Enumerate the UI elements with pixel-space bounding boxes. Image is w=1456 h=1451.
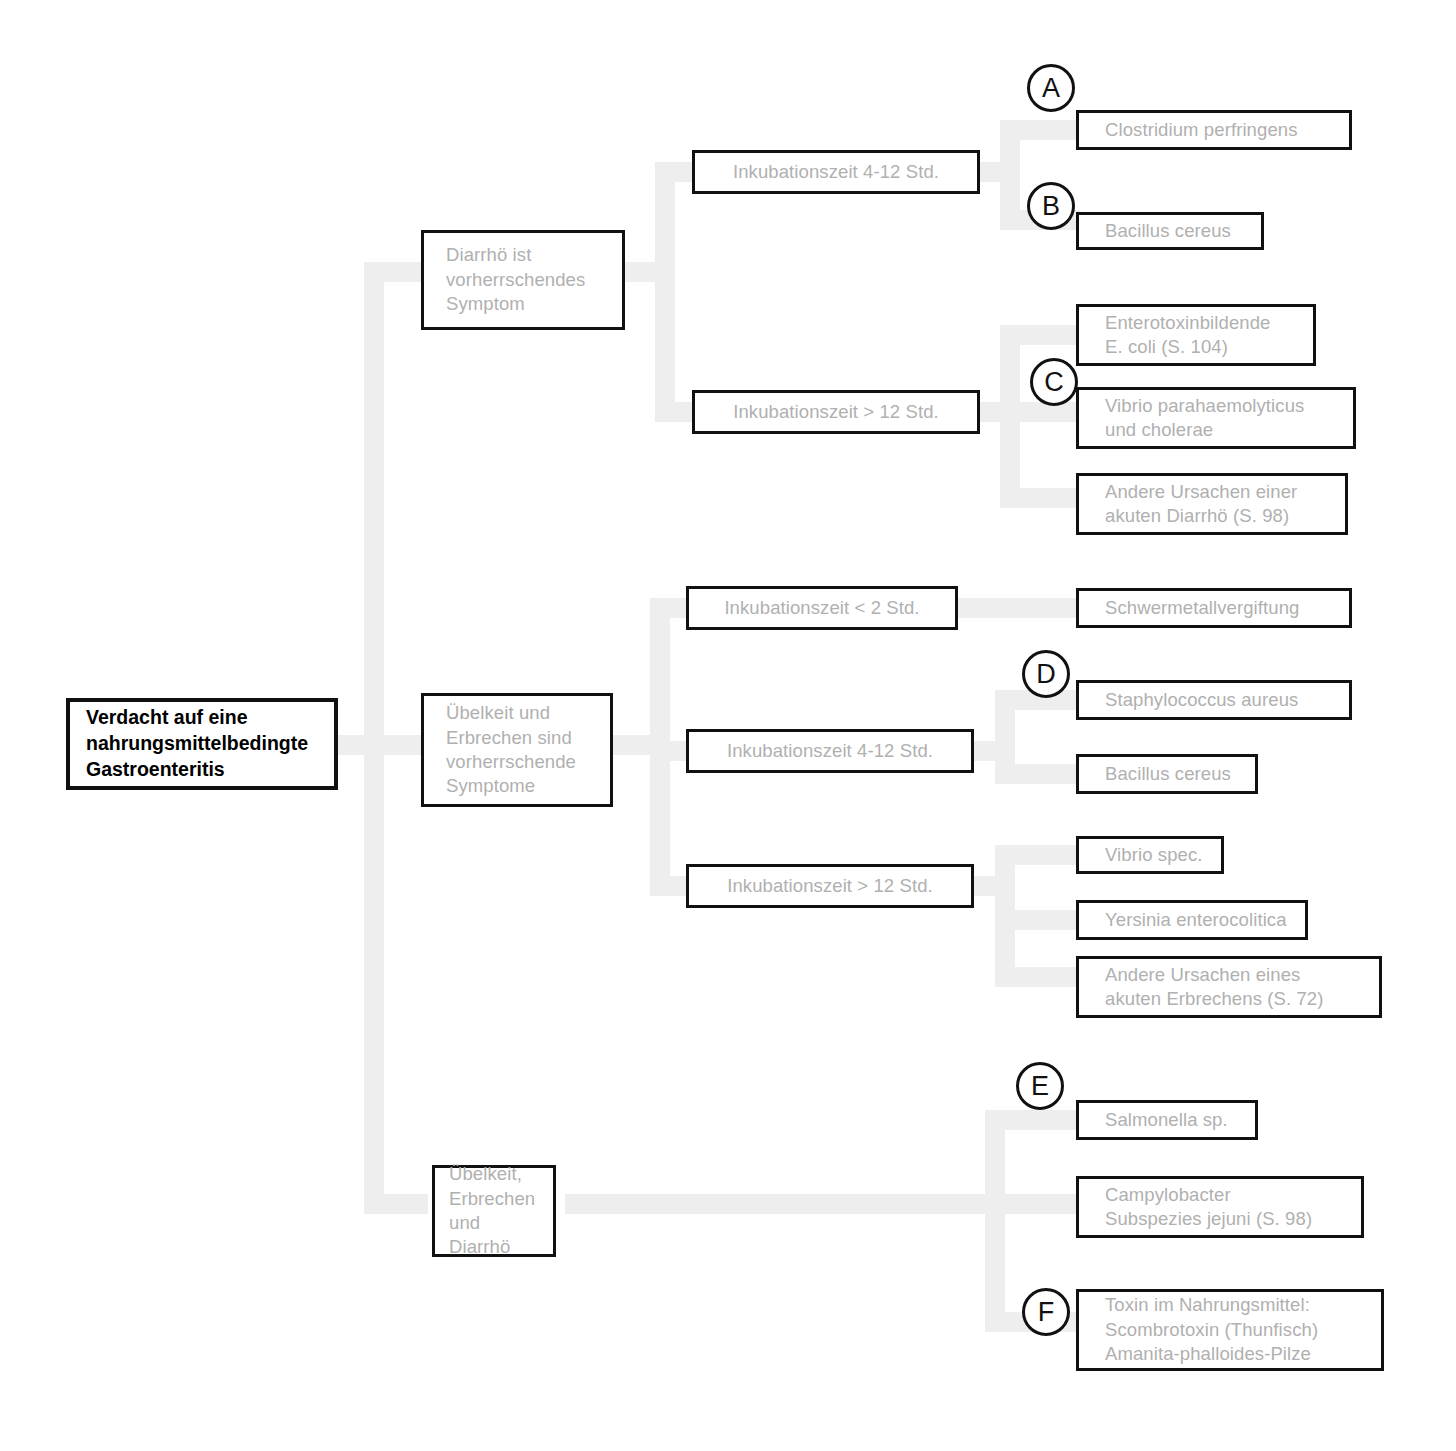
connector-branch3-stem <box>565 1194 1005 1214</box>
circle-tag-c: C <box>1030 358 1078 406</box>
node-root[interactable]: Verdacht auf eine nahrungsmittelbedingte… <box>66 698 338 790</box>
connector-cond12-to-o2 <box>1000 402 1080 422</box>
node-branch-uebelkeit-erbrechen-diarrhoe[interactable]: Übelkeit, Erbrechen und Diarrhö <box>432 1165 556 1257</box>
node-condition-inkubation-gt-12-a[interactable]: Inkubationszeit > 12 Std. <box>692 390 980 434</box>
node-outcome-bacillus-cereus-a[interactable]: Bacillus cereus <box>1076 212 1264 250</box>
node-outcome-andere-ursachen-diarrhoe[interactable]: Andere Ursachen einer akuten Diarrhö (S.… <box>1076 473 1348 535</box>
node-outcome-staphylococcus-aureus[interactable]: Staphylococcus aureus <box>1076 680 1352 720</box>
node-outcome-salmonella-sp[interactable]: Salmonella sp. <box>1076 1100 1258 1140</box>
node-outcome-yersinia-enterocolitica[interactable]: Yersinia enterocolitica <box>1076 900 1308 940</box>
connector-cond12-to-o1 <box>1000 325 1080 345</box>
connector-cond21-to-outcome <box>955 598 1080 618</box>
connector-trunk-to-branch2 <box>364 735 428 755</box>
node-condition-inkubation-4-12-b[interactable]: Inkubationszeit 4-12 Std. <box>686 729 974 773</box>
circle-tag-a: A <box>1027 64 1075 112</box>
node-condition-inkubation-lt-2[interactable]: Inkubationszeit < 2 Std. <box>686 586 958 630</box>
node-branch-uebelkeit-erbrechen[interactable]: Übelkeit und Erbrechen sind vorherrschen… <box>421 693 613 807</box>
connector-cond23-to-o3 <box>995 967 1080 987</box>
connector-branch1-spine <box>655 162 675 422</box>
connector-cond23-to-o2 <box>995 910 1080 930</box>
connector-branch1-to-cond2 <box>655 402 695 422</box>
node-outcome-vibrio-parahaemolyticus[interactable]: Vibrio parahaemolyticus und cholerae <box>1076 387 1356 449</box>
node-branch-diarrhoe[interactable]: Diarrhö ist vorherrschendes Symptom <box>421 230 625 330</box>
circle-tag-f: F <box>1022 1288 1070 1336</box>
node-outcome-vibrio-spec[interactable]: Vibrio spec. <box>1076 836 1224 874</box>
node-outcome-enterotoxinbildende-ecoli[interactable]: Enterotoxinbildende E. coli (S. 104) <box>1076 304 1316 366</box>
node-outcome-toxin-nahrungsmittel[interactable]: Toxin im Nahrungsmittel: Scombrotoxin (T… <box>1076 1289 1384 1371</box>
circle-tag-d: D <box>1022 650 1070 698</box>
node-outcome-schwermetallvergiftung[interactable]: Schwermetallvergiftung <box>1076 588 1352 628</box>
connector-trunk-to-branch1 <box>364 262 428 282</box>
connector-cond12-to-o3 <box>1000 488 1080 508</box>
node-outcome-bacillus-cereus-b[interactable]: Bacillus cereus <box>1076 754 1258 794</box>
node-condition-inkubation-gt-12-b[interactable]: Inkubationszeit > 12 Std. <box>686 864 974 908</box>
connector-branch3-spine <box>985 1110 1005 1332</box>
circle-tag-e: E <box>1016 1062 1064 1110</box>
connector-branch1-to-cond1 <box>655 162 695 182</box>
diagram-canvas: Verdacht auf eine nahrungsmittelbedingte… <box>0 0 1456 1451</box>
connector-cond22-to-o2 <box>995 764 1080 784</box>
node-condition-inkubation-4-12-a[interactable]: Inkubationszeit 4-12 Std. <box>692 150 980 194</box>
connector-cond11-to-a <box>1000 120 1080 140</box>
connector-trunk-to-branch3 <box>364 1194 428 1214</box>
node-outcome-andere-ursachen-erbrechen[interactable]: Andere Ursachen eines akuten Erbrechens … <box>1076 956 1382 1018</box>
connector-branch3-to-e <box>985 1110 1080 1130</box>
connector-branch3-to-campylobacter <box>985 1194 1080 1214</box>
connector-cond23-to-o1 <box>995 845 1080 865</box>
circle-tag-b: B <box>1027 182 1075 230</box>
node-outcome-campylobacter-jejuni[interactable]: Campylobacter Subspezies jejuni (S. 98) <box>1076 1176 1364 1238</box>
node-outcome-clostridium-perfringens[interactable]: Clostridium perfringens <box>1076 110 1352 150</box>
